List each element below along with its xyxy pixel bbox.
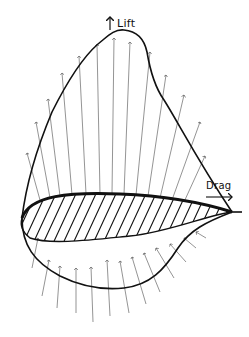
airfoil-diagram bbox=[0, 0, 249, 337]
drag-label: Drag bbox=[206, 180, 232, 191]
upper-arrows bbox=[27, 38, 205, 202]
lift-label: Lift bbox=[117, 17, 135, 30]
lower-envelope bbox=[22, 212, 232, 289]
